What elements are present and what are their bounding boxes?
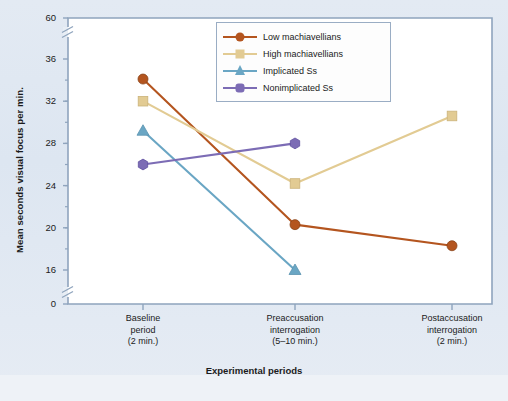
legend-swatch-icon: [223, 82, 257, 94]
x-tick-label: Preaccusationinterrogation(5–10 min.): [235, 313, 355, 348]
y-tick-label: 36: [30, 53, 56, 64]
y-tick-label: 28: [30, 137, 56, 148]
y-tick-label: 60: [30, 12, 56, 23]
y-tick-label: 32: [30, 95, 56, 106]
legend-swatch-icon: [223, 31, 257, 43]
legend-label: Nonimplicated Ss: [263, 83, 333, 93]
legend-item-hexagon: Nonimplicated Ss: [223, 79, 383, 96]
legend-label: Low machiavellians: [263, 32, 341, 42]
x-axis-title: Experimental periods: [0, 365, 508, 376]
y-tick-label: 24: [30, 180, 56, 191]
chart-legend: Low machiavelliansHigh machiavelliansImp…: [216, 22, 391, 102]
y-tick-label: 16: [30, 264, 56, 275]
x-tick-label: Postaccusationinterrogation(2 min.): [392, 313, 508, 348]
legend-label: Implicated Ss: [263, 66, 317, 76]
legend-swatch-icon: [223, 48, 257, 60]
line-chart: Mean seconds visual focus per min. Exper…: [0, 0, 508, 401]
y-tick-label: 20: [30, 222, 56, 233]
legend-item-triangle: Implicated Ss: [223, 62, 383, 79]
y-tick-label: 0: [30, 298, 56, 309]
legend-item-circle: Low machiavellians: [223, 28, 383, 45]
legend-label: High machiavellians: [263, 49, 343, 59]
y-axis-title: Mean seconds visual focus per min.: [14, 60, 25, 280]
legend-item-square: High machiavellians: [223, 45, 383, 62]
legend-swatch-icon: [223, 65, 257, 77]
x-tick-label: Baselineperiod(2 min.): [83, 313, 203, 348]
